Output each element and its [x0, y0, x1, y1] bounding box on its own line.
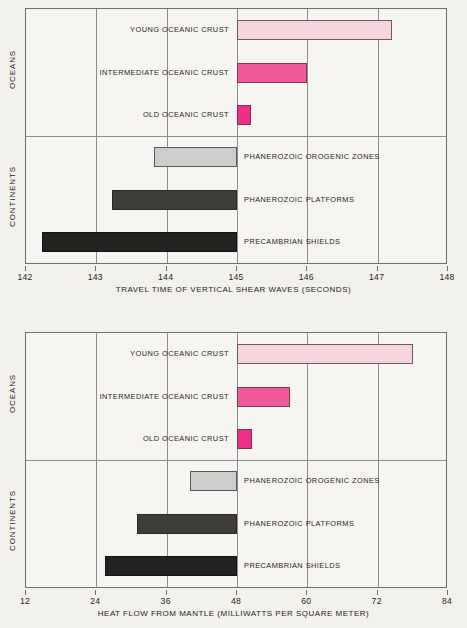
bar-label: PHANEROZOIC OROGENIC ZONES	[244, 147, 380, 167]
bar-label: PHANEROZOIC PLATFORMS	[244, 514, 354, 534]
plot-area-heat-flow: YOUNG OCEANIC CRUSTINTERMEDIATE OCEANIC …	[25, 332, 447, 588]
tick-label-147: 147	[369, 272, 384, 282]
tick-24	[95, 590, 96, 595]
bar-orogenic	[154, 147, 237, 167]
tick-label-84: 84	[442, 596, 452, 606]
bar-platforms	[137, 514, 237, 534]
tick-142	[25, 266, 26, 271]
bar-shields	[105, 556, 237, 576]
bar-orogenic	[190, 471, 237, 491]
bar-shields	[42, 232, 237, 252]
bar-label: PRECAMBRIAN SHIELDS	[244, 556, 340, 576]
bar-label: PHANEROZOIC OROGENIC ZONES	[244, 471, 380, 491]
tick-label-146: 146	[299, 272, 314, 282]
tick-84	[447, 590, 448, 595]
bar-label: PRECAMBRIAN SHIELDS	[244, 232, 340, 252]
tick-60	[306, 590, 307, 595]
tick-label-60: 60	[301, 596, 311, 606]
tick-12	[25, 590, 26, 595]
x-axis-title-travel-time: TRAVEL TIME OF VERTICAL SHEAR WAVES (SEC…	[0, 285, 467, 294]
tick-label-24: 24	[90, 596, 100, 606]
panel-travel-time: YOUNG OCEANIC CRUSTINTERMEDIATE OCEANIC …	[0, 0, 467, 312]
bar-label: OLD OCEANIC CRUST	[143, 429, 229, 449]
group-divider	[26, 136, 446, 137]
tick-36	[166, 590, 167, 595]
tick-label-72: 72	[372, 596, 382, 606]
tick-144	[166, 266, 167, 271]
tick-143	[95, 266, 96, 271]
bar-label: PHANEROZOIC PLATFORMS	[244, 190, 354, 210]
figure-two-panel-bar-charts: YOUNG OCEANIC CRUSTINTERMEDIATE OCEANIC …	[0, 0, 467, 628]
tick-label-144: 144	[158, 272, 173, 282]
tick-label-142: 142	[17, 272, 32, 282]
tick-label-36: 36	[161, 596, 171, 606]
group-label-oceans-travel-time: OCEANS	[8, 24, 17, 114]
tick-label-143: 143	[88, 272, 103, 282]
bar-label: OLD OCEANIC CRUST	[143, 105, 229, 125]
tick-148	[447, 266, 448, 271]
tick-48	[236, 590, 237, 595]
bar-label: INTERMEDIATE OCEANIC CRUST	[100, 63, 229, 83]
bar-old	[237, 105, 251, 125]
group-label-continents-travel-time: CONTINENTS	[8, 151, 17, 241]
bar-young	[237, 344, 413, 364]
bar-label: YOUNG OCEANIC CRUST	[130, 20, 229, 40]
x-axis-title-heat-flow: HEAT FLOW FROM MANTLE (MILLIWATTS PER SQ…	[0, 609, 467, 618]
bar-label: INTERMEDIATE OCEANIC CRUST	[100, 387, 229, 407]
tick-label-48: 48	[231, 596, 241, 606]
tick-146	[306, 266, 307, 271]
bar-young	[237, 20, 392, 40]
tick-145	[236, 266, 237, 271]
group-label-continents-heat-flow: CONTINENTS	[8, 475, 17, 565]
bar-platforms	[112, 190, 237, 210]
tick-147	[377, 266, 378, 271]
group-label-oceans-heat-flow: OCEANS	[8, 348, 17, 438]
tick-label-148: 148	[439, 272, 454, 282]
tick-72	[377, 590, 378, 595]
bar-old	[237, 429, 252, 449]
group-divider	[26, 460, 446, 461]
bar-intermediate	[237, 63, 307, 83]
panel-heat-flow: YOUNG OCEANIC CRUSTINTERMEDIATE OCEANIC …	[0, 312, 467, 628]
bar-label: YOUNG OCEANIC CRUST	[130, 344, 229, 364]
bar-intermediate	[237, 387, 290, 407]
plot-area-travel-time: YOUNG OCEANIC CRUSTINTERMEDIATE OCEANIC …	[25, 8, 447, 264]
tick-label-145: 145	[228, 272, 243, 282]
tick-label-12: 12	[20, 596, 30, 606]
